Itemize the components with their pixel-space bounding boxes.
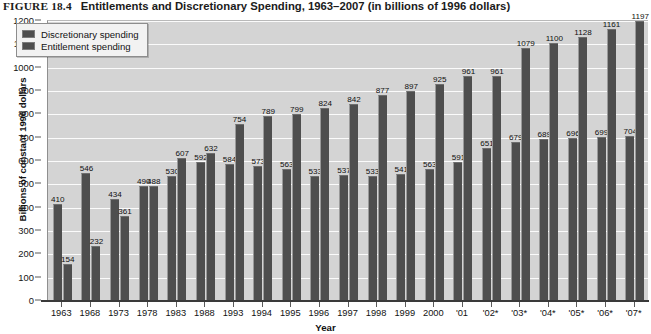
y-tick-label: 700 bbox=[18, 131, 34, 142]
bar-value-label: 824 bbox=[319, 99, 333, 108]
x-tick-mark bbox=[233, 302, 234, 307]
y-tick-mark bbox=[35, 136, 41, 137]
y-tick-mark bbox=[35, 183, 41, 184]
plot-area: 4101545462324343614904885306075926325847… bbox=[47, 20, 648, 300]
y-tick-mark bbox=[35, 276, 41, 277]
chart-legend: Discretionary spending Entitlement spend… bbox=[16, 23, 148, 57]
bar-discretionary[interactable]: 651 bbox=[482, 148, 491, 300]
bar-discretionary[interactable]: 563 bbox=[282, 169, 291, 300]
bar-value-label: 546 bbox=[80, 164, 94, 173]
bar-group: 530607 bbox=[167, 21, 186, 300]
bar-entitlement[interactable]: 1197 bbox=[635, 21, 644, 300]
bar-discretionary[interactable]: 537 bbox=[339, 175, 348, 300]
bar-discretionary[interactable]: 679 bbox=[511, 142, 520, 300]
x-tick-mark bbox=[634, 302, 635, 307]
bar-entitlement[interactable]: 361 bbox=[120, 216, 129, 300]
bar-discretionary[interactable]: 490 bbox=[139, 186, 148, 300]
legend-swatch-icon bbox=[22, 30, 35, 38]
bar-entitlement[interactable]: 1100 bbox=[549, 43, 558, 300]
bar-value-label: 961 bbox=[462, 67, 476, 76]
bar-discretionary[interactable]: 591 bbox=[453, 162, 462, 300]
bar-entitlement[interactable]: 897 bbox=[406, 91, 415, 300]
y-tick-mark bbox=[35, 230, 41, 231]
bar-discretionary[interactable]: 563 bbox=[425, 169, 434, 300]
x-tick-mark bbox=[462, 302, 463, 307]
bar-discretionary[interactable]: 533 bbox=[310, 176, 319, 300]
bar-entitlement[interactable]: 1128 bbox=[578, 37, 587, 300]
bar-value-label: 897 bbox=[404, 82, 418, 91]
bar-discretionary[interactable]: 530 bbox=[167, 176, 176, 300]
bar-discretionary[interactable]: 704 bbox=[625, 136, 634, 300]
bar-value-label: 754 bbox=[233, 115, 247, 124]
x-tick-mark bbox=[605, 302, 606, 307]
legend-label: Entitlement spending bbox=[41, 41, 131, 52]
bar-entitlement[interactable]: 1161 bbox=[607, 29, 616, 300]
x-tick-mark bbox=[491, 302, 492, 307]
bar-entitlement[interactable]: 961 bbox=[463, 76, 472, 300]
x-tick-label: '04* bbox=[540, 308, 556, 318]
x-tick-mark bbox=[319, 302, 320, 307]
x-tick-label: 1963 bbox=[51, 308, 72, 318]
bar-value-label: 632 bbox=[204, 144, 218, 153]
bar-discretionary[interactable]: 699 bbox=[597, 137, 606, 300]
bar-value-label: 154 bbox=[61, 255, 75, 264]
bar-value-label: 799 bbox=[290, 105, 304, 114]
bar-entitlement[interactable]: 961 bbox=[492, 76, 501, 300]
bar-entitlement[interactable]: 754 bbox=[235, 124, 244, 300]
bar-entitlement[interactable]: 842 bbox=[349, 104, 358, 300]
bar-entitlement[interactable]: 877 bbox=[378, 95, 387, 300]
bar-value-label: 232 bbox=[90, 237, 104, 246]
bar-entitlement[interactable]: 789 bbox=[263, 116, 272, 300]
x-tick-mark bbox=[405, 302, 406, 307]
x-tick-label: 1978 bbox=[137, 308, 158, 318]
y-tick-label: 600 bbox=[18, 155, 34, 166]
bar-value-label: 789 bbox=[261, 107, 275, 116]
bar-group: 6891100 bbox=[539, 21, 558, 300]
bar-group: 7041197 bbox=[625, 21, 644, 300]
bar-discretionary[interactable]: 689 bbox=[539, 139, 548, 300]
y-tick-mark bbox=[35, 20, 41, 21]
bar-discretionary[interactable]: 584 bbox=[225, 164, 234, 300]
bar-discretionary[interactable]: 696 bbox=[568, 138, 577, 300]
legend-item-entitlement: Entitlement spending bbox=[22, 40, 139, 52]
bar-discretionary[interactable]: 573 bbox=[253, 166, 262, 300]
bar-entitlement[interactable]: 154 bbox=[63, 264, 72, 300]
bar-value-label: 961 bbox=[490, 67, 504, 76]
bar-discretionary[interactable]: 592 bbox=[196, 162, 205, 300]
x-tick-label: 1973 bbox=[108, 308, 129, 318]
y-tick-mark bbox=[35, 253, 41, 254]
bar-value-label: 1197 bbox=[631, 12, 648, 21]
bar-value-label: 410 bbox=[51, 195, 65, 204]
bar-entitlement[interactable]: 824 bbox=[320, 108, 329, 300]
bar-entitlement[interactable]: 232 bbox=[91, 246, 100, 300]
bar-value-label: 607 bbox=[176, 149, 190, 158]
y-tick-mark bbox=[35, 160, 41, 161]
bar-discretionary[interactable]: 410 bbox=[53, 204, 62, 300]
bar-entitlement[interactable]: 925 bbox=[435, 84, 444, 300]
bar-entitlement[interactable]: 607 bbox=[177, 158, 186, 300]
x-tick-mark bbox=[348, 302, 349, 307]
bar-chart: Billions of constant 1996 dollars 010020… bbox=[0, 14, 651, 334]
bar-entitlement[interactable]: 799 bbox=[292, 114, 301, 300]
x-tick-label: '07* bbox=[626, 308, 642, 318]
x-tick-label: 1995 bbox=[280, 308, 301, 318]
bar-group: 537842 bbox=[339, 21, 358, 300]
bar-discretionary[interactable]: 541 bbox=[396, 174, 405, 300]
bar-group: 563925 bbox=[425, 21, 444, 300]
bar-value-label: 877 bbox=[376, 86, 390, 95]
bar-entitlement[interactable]: 632 bbox=[206, 153, 215, 300]
y-tick-mark bbox=[35, 113, 41, 114]
legend-swatch-icon bbox=[22, 42, 35, 50]
x-tick-label: '06* bbox=[597, 308, 613, 318]
x-tick-mark bbox=[61, 302, 62, 307]
x-tick-label: 1996 bbox=[309, 308, 330, 318]
bar-discretionary[interactable]: 533 bbox=[368, 176, 377, 300]
bar-group: 6961128 bbox=[568, 21, 587, 300]
y-tick-label: 800 bbox=[18, 108, 34, 119]
bar-entitlement[interactable]: 1079 bbox=[521, 48, 530, 300]
x-tick-label: 1993 bbox=[223, 308, 244, 318]
bar-entitlement[interactable]: 488 bbox=[149, 186, 158, 300]
legend-item-discretionary: Discretionary spending bbox=[22, 28, 139, 40]
y-tick-label: 300 bbox=[18, 225, 34, 236]
y-tick-label: 400 bbox=[18, 201, 34, 212]
